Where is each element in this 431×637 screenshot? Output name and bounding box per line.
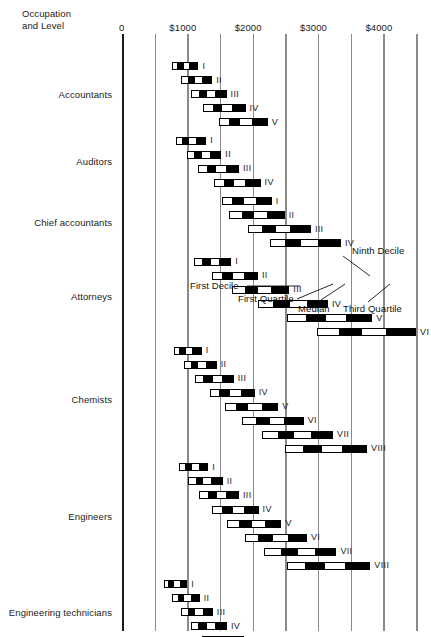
segment-q3-to-ninth-decile [226, 166, 239, 172]
segment-q1-to-median [213, 105, 222, 111]
segment-q1-to-median [202, 259, 210, 265]
segment-q3-to-ninth-decile [342, 446, 367, 452]
level-label: VI [311, 532, 320, 542]
segment-q1-to-median [188, 609, 196, 615]
level-label: VIII [371, 443, 386, 453]
segment-q3-to-ninth-decile [215, 91, 226, 97]
bar [181, 608, 213, 616]
level-label: IV [231, 621, 240, 631]
segment-q1-to-median [207, 166, 216, 172]
segment-q3-to-ninth-decile [262, 404, 278, 410]
bar [219, 118, 268, 126]
segment-q3-to-ninth-decile [318, 240, 340, 246]
bar [287, 562, 371, 570]
bar [191, 622, 227, 630]
bar [245, 534, 307, 542]
segment-q1-to-median [339, 329, 363, 335]
bar [172, 594, 200, 602]
segment-q3-to-ninth-decile [180, 581, 188, 587]
bar [172, 62, 199, 70]
segment-q1-to-median [203, 376, 212, 382]
segment-q3-to-ninth-decile [345, 563, 370, 569]
level-label: III [217, 607, 226, 617]
occupation-label: Attorneys [71, 291, 112, 302]
bar [187, 151, 221, 159]
segment-q1-to-median [198, 623, 206, 629]
segment-q1-to-median [258, 535, 272, 541]
bar [191, 90, 226, 98]
segment-q1-to-median [229, 119, 240, 125]
bar [212, 272, 258, 280]
segment-q3-to-ninth-decile [222, 376, 234, 382]
bar [214, 179, 261, 187]
level-label: IV [332, 299, 341, 309]
segment-q1-to-median [224, 180, 234, 186]
segment-q1-to-median [306, 315, 326, 321]
level-label: VIII [374, 560, 389, 570]
bar [198, 165, 239, 173]
level-label: II [289, 210, 295, 220]
occupation-label: Auditors [76, 156, 112, 167]
level-label: I [276, 196, 279, 206]
level-label: III [315, 224, 324, 234]
gridline-1000 [187, 34, 188, 631]
bar [317, 328, 416, 336]
header-occupation: Occupation [22, 8, 71, 20]
segment-q3-to-ninth-decile [202, 77, 212, 83]
segment-q3-to-ninth-decile [215, 623, 226, 629]
bar [212, 506, 258, 514]
segment-q3-to-ninth-decile [265, 521, 281, 527]
bar [287, 314, 372, 322]
segment-q1-to-median [177, 63, 185, 69]
level-label: III [243, 163, 252, 173]
bar [184, 361, 217, 369]
bar [264, 548, 336, 556]
axis-tick-4000: $4000 [365, 22, 392, 33]
level-label: III [231, 89, 240, 99]
segment-q1-to-median [236, 404, 248, 410]
segment-q3-to-ninth-decile [245, 180, 260, 186]
segment-q3-to-ninth-decile [244, 273, 258, 279]
bar [227, 520, 281, 528]
bar [222, 197, 272, 205]
callout-ninth-decile: Ninth Decile [352, 245, 404, 256]
bar [210, 389, 255, 397]
segment-q3-to-ninth-decile [219, 259, 231, 265]
segment-q3-to-ninth-decile [346, 315, 372, 321]
segment-q1-to-median [305, 563, 325, 569]
gridline-4500 [416, 34, 417, 631]
level-label: V [285, 518, 291, 528]
level-label: II [262, 270, 268, 280]
segment-q3-to-ninth-decile [191, 595, 199, 601]
occupation-label: Chief accountants [34, 217, 112, 228]
segment-q1-to-median [278, 432, 294, 438]
level-label: I [212, 462, 215, 472]
salary-distribution-chart: Occupation and Level 0$1000$2000$3000$40… [0, 0, 431, 637]
bar [194, 258, 231, 266]
segment-q1-to-median [178, 595, 185, 601]
callout-median: Median [298, 303, 330, 314]
axis-tick-2000: $2000 [235, 22, 262, 33]
segment-q1-to-median [185, 464, 192, 470]
segment-q1-to-median [182, 138, 189, 144]
segment-q1-to-median [168, 581, 174, 587]
level-label: II [227, 476, 233, 486]
segment-q1-to-median [219, 390, 229, 396]
segment-q3-to-ninth-decile [256, 198, 272, 204]
bar [285, 445, 367, 453]
segment-q3-to-ninth-decile [288, 535, 307, 541]
segment-q1-to-median [262, 226, 276, 232]
bar [270, 239, 341, 247]
segment-q1-to-median [196, 478, 204, 484]
bar [181, 76, 212, 84]
bar [179, 463, 208, 471]
axis-tick-0: 0 [119, 22, 124, 33]
segment-q3-to-ninth-decile [244, 507, 258, 513]
segment-q3-to-ninth-decile [284, 418, 303, 424]
level-label: III [243, 490, 252, 500]
occupation-label: Engineering technicians [9, 607, 112, 618]
segment-q3-to-ninth-decile [386, 329, 416, 335]
bar [225, 403, 279, 411]
level-label: V [272, 117, 278, 127]
segment-q3-to-ninth-decile [226, 492, 238, 498]
